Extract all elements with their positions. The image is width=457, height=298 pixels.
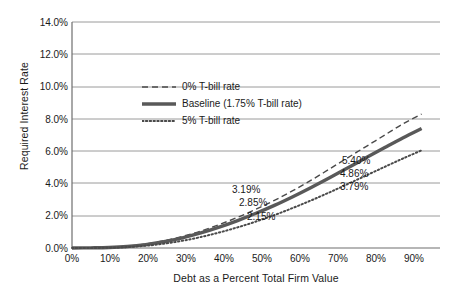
chart-legend: 0% T-bill rate Baseline (1.75% T-bill ra… (142, 78, 342, 129)
legend-label: 0% T-bill rate (182, 81, 240, 92)
legend-item-0pct: 0% T-bill rate (142, 78, 342, 95)
legend-label: 5% T-bill rate (182, 115, 240, 126)
legend-label: Baseline (1.75% T-bill rate) (182, 98, 302, 109)
legend-solid-line-icon (142, 99, 176, 109)
legend-item-baseline: Baseline (1.75% T-bill rate) (142, 95, 342, 112)
data-label: 4.86% (340, 168, 368, 179)
series-line (72, 114, 422, 248)
data-label: 5.40% (342, 155, 370, 166)
legend-dotted-line-icon (142, 116, 176, 126)
data-label: 2.85% (239, 197, 267, 208)
legend-dashed-line-icon (142, 82, 176, 92)
chart-container: Required Interest Rate 14.0% 12.0% 10.0%… (0, 0, 457, 298)
legend-item-5pct: 5% T-bill rate (142, 112, 342, 129)
plot-area (0, 0, 457, 298)
data-label: 3.79% (340, 181, 368, 192)
data-label: 3.19% (232, 184, 260, 195)
data-label: 2.15% (247, 211, 275, 222)
series-layer (72, 114, 422, 248)
